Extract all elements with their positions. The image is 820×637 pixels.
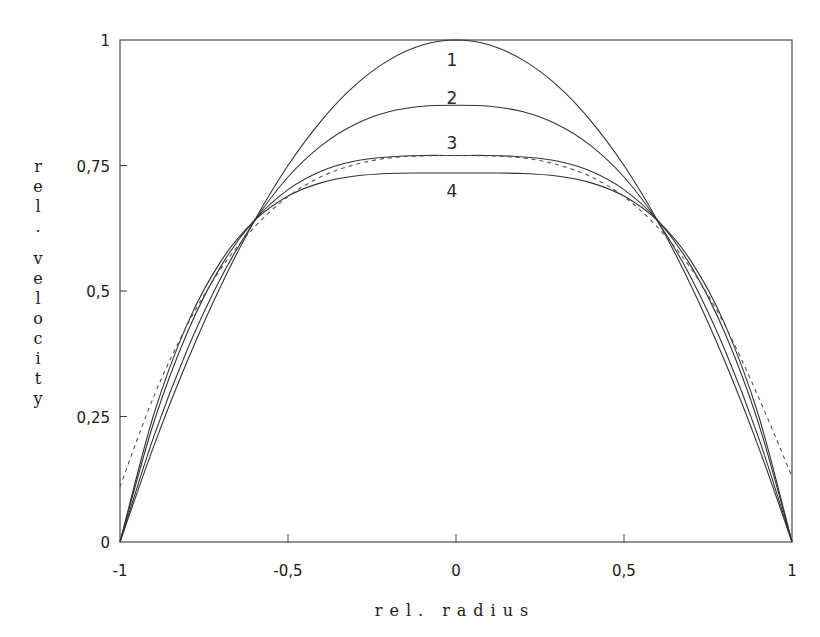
y-axis-title-letter: t [35, 369, 42, 388]
y-tick-label: 1 [100, 32, 110, 50]
y-axis-title: rel.velocity [32, 157, 42, 408]
curve-reference-dashed [120, 156, 792, 487]
y-axis-title-letter: r [34, 157, 42, 176]
curve-4 [120, 173, 792, 542]
curve-label-4: 4 [447, 181, 458, 201]
curves [120, 40, 792, 542]
y-tick-label: 0,75 [77, 158, 110, 176]
curve-labels: 1234 [447, 50, 458, 201]
y-axis-title-letter: y [32, 389, 42, 408]
curve-label-1: 1 [447, 50, 458, 70]
velocity-profile-chart: 00,250,50,751 -1-0,500,51 1234 rel. radi… [0, 0, 820, 637]
curve-label-3: 3 [447, 133, 458, 153]
y-axis-title-letter: i [35, 349, 40, 368]
y-tick-label: 0 [100, 534, 110, 552]
y-tick-label: 0,5 [86, 283, 110, 301]
curve-label-2: 2 [447, 88, 458, 108]
y-axis-title-letter: e [33, 177, 42, 196]
y-axis-ticks: 00,250,50,751 [77, 32, 127, 552]
y-tick-label: 0,25 [77, 409, 110, 427]
y-axis-title-letter: c [34, 329, 43, 348]
curve-2 [120, 105, 792, 542]
x-tick-label: 1 [787, 562, 797, 580]
y-axis-title-letter: l [35, 289, 40, 308]
curve-1 [120, 40, 792, 542]
x-tick-label: 0 [451, 562, 461, 580]
x-axis-title: rel. radius [375, 601, 535, 620]
plot-frame [120, 40, 792, 542]
y-axis-title-letter: o [33, 309, 43, 328]
y-axis-title-letter: . [35, 217, 40, 236]
x-tick-label: -0,5 [273, 562, 302, 580]
curve-3 [120, 155, 792, 542]
y-axis-title-letter: v [32, 249, 42, 268]
y-axis-title-letter: l [35, 197, 40, 216]
x-tick-label: -1 [113, 562, 128, 580]
x-tick-label: 0,5 [612, 562, 636, 580]
x-axis-ticks: -1-0,500,51 [113, 534, 797, 580]
y-axis-title-letter: e [33, 269, 42, 288]
